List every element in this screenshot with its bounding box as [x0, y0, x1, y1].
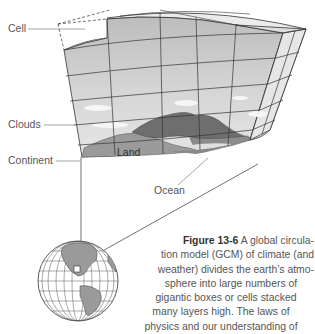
figure-caption: Figure 13-6 A global circula- tion model… — [128, 234, 314, 334]
caption-line: tion model (GCM) of climate (and — [128, 248, 314, 262]
land-label: Land — [117, 146, 140, 158]
cell-label: Cell — [8, 22, 26, 34]
caption-line: A global circula- — [241, 235, 314, 246]
ocean-label: Ocean — [154, 184, 185, 196]
globe — [38, 241, 118, 321]
caption-line: gigantic boxes or cells stacked — [128, 291, 314, 305]
caption-line: weather) divides the earth’s atmo- — [128, 263, 314, 277]
caption-line: physics and our understanding of — [128, 320, 314, 334]
caption-line: sphere into large numbers of — [128, 277, 314, 291]
clouds-label: Clouds — [8, 118, 41, 130]
caption-line: many layers high. The laws of — [128, 305, 314, 319]
ocean-leader — [178, 158, 208, 185]
continent-label: Continent — [8, 154, 53, 166]
figure-number: Figure 13-6 — [183, 235, 238, 246]
